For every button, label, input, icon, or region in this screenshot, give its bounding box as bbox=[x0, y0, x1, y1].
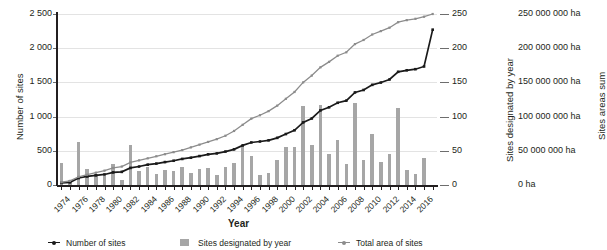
x-tick-mark bbox=[105, 186, 106, 190]
data-point bbox=[423, 65, 426, 68]
y-tick-label-right-2: 250 000 000 ha bbox=[518, 8, 581, 18]
data-point bbox=[69, 180, 71, 182]
x-tick-mark bbox=[364, 186, 365, 190]
data-point bbox=[423, 16, 425, 18]
y-tick-mark-right bbox=[440, 14, 449, 15]
x-tick-mark bbox=[286, 186, 287, 190]
data-point bbox=[302, 121, 305, 124]
data-point bbox=[319, 109, 322, 112]
data-point bbox=[95, 172, 97, 174]
data-point bbox=[207, 153, 210, 156]
data-point bbox=[146, 163, 149, 166]
data-point bbox=[431, 28, 434, 31]
x-tick-mark bbox=[208, 186, 209, 190]
data-point bbox=[172, 151, 174, 153]
data-point bbox=[388, 27, 390, 29]
y-tick-mark-right bbox=[440, 185, 449, 186]
x-tick-mark bbox=[407, 186, 408, 190]
data-point bbox=[345, 99, 348, 102]
data-point bbox=[276, 137, 279, 140]
y-tick-label-right-1: 50 bbox=[452, 145, 462, 155]
data-point bbox=[86, 174, 88, 176]
y-tick-label-right-2: 0 ha bbox=[518, 179, 536, 189]
data-point bbox=[181, 149, 183, 151]
y-tick-label-left: 1 000 bbox=[10, 111, 52, 121]
data-point bbox=[319, 66, 321, 68]
data-point bbox=[60, 181, 62, 183]
data-point bbox=[112, 171, 115, 174]
data-point bbox=[259, 114, 261, 116]
x-tick-mark bbox=[346, 186, 347, 190]
data-point bbox=[129, 167, 132, 170]
x-tick-mark bbox=[234, 186, 235, 190]
data-point bbox=[345, 51, 347, 53]
data-point bbox=[354, 43, 356, 45]
data-point bbox=[406, 19, 408, 21]
data-point bbox=[112, 167, 114, 169]
data-point bbox=[215, 152, 218, 155]
data-point bbox=[328, 106, 331, 109]
data-point bbox=[120, 171, 123, 174]
data-point bbox=[267, 139, 270, 142]
data-point bbox=[397, 21, 399, 23]
legend-marker-dot bbox=[342, 241, 346, 245]
data-point bbox=[155, 162, 158, 165]
x-tick-mark bbox=[295, 186, 296, 190]
x-tick-mark bbox=[433, 186, 434, 190]
x-tick-mark bbox=[303, 186, 304, 190]
data-point bbox=[147, 157, 149, 159]
data-point bbox=[172, 159, 175, 162]
x-tick-mark bbox=[260, 186, 261, 190]
y-tick-label-right-1: 0 bbox=[452, 179, 457, 189]
x-tick-mark bbox=[381, 186, 382, 190]
x-tick-mark bbox=[269, 186, 270, 190]
data-point bbox=[380, 81, 383, 84]
x-tick-mark bbox=[165, 186, 166, 190]
data-point bbox=[138, 165, 141, 168]
data-point bbox=[250, 118, 252, 120]
y-tick-label-right-2: 50 000 000 ha bbox=[518, 145, 576, 155]
y-tick-mark-right bbox=[440, 117, 449, 118]
y-tick-mark-right bbox=[440, 82, 449, 83]
y-tick-mark-right bbox=[440, 48, 449, 49]
x-tick-mark bbox=[312, 186, 313, 190]
legend-marker-dot bbox=[52, 241, 56, 245]
data-point bbox=[138, 159, 140, 161]
data-point bbox=[371, 84, 374, 87]
y-tick-mark-right bbox=[440, 151, 449, 152]
legend-label: Number of sites bbox=[66, 238, 126, 248]
data-point bbox=[362, 89, 365, 92]
x-tick-mark bbox=[390, 186, 391, 190]
data-point bbox=[337, 55, 339, 57]
legend-marker-square bbox=[180, 239, 189, 246]
plot-area bbox=[57, 14, 437, 185]
data-point bbox=[224, 150, 227, 153]
data-point bbox=[103, 170, 105, 172]
x-tick-mark bbox=[70, 186, 71, 190]
data-point bbox=[397, 71, 400, 74]
y-tick-label-left: 2 000 bbox=[10, 42, 52, 52]
y-tick-label-left: 0 bbox=[10, 179, 52, 189]
data-point bbox=[241, 144, 244, 147]
x-tick-mark bbox=[200, 186, 201, 190]
data-point bbox=[328, 61, 330, 63]
data-point bbox=[181, 158, 184, 161]
y-tick-label-right-2: 200 000 000 ha bbox=[518, 42, 581, 52]
data-point bbox=[276, 105, 278, 107]
x-tick-mark bbox=[96, 186, 97, 190]
y-tick-label-right-1: 150 bbox=[452, 76, 467, 86]
data-point bbox=[362, 39, 364, 41]
data-point bbox=[380, 30, 382, 32]
x-tick-mark bbox=[217, 186, 218, 190]
x-tick-mark bbox=[130, 186, 131, 190]
data-point bbox=[198, 155, 201, 158]
line-series-layer bbox=[57, 14, 437, 185]
data-point bbox=[233, 148, 236, 151]
x-tick-mark bbox=[338, 186, 339, 190]
x-tick-mark bbox=[191, 186, 192, 190]
y-axis-title-right-1: Sites designated by year bbox=[504, 58, 515, 162]
x-tick-mark bbox=[61, 186, 62, 190]
x-tick-mark bbox=[148, 186, 149, 190]
data-point bbox=[285, 133, 288, 136]
x-tick-mark bbox=[243, 186, 244, 190]
